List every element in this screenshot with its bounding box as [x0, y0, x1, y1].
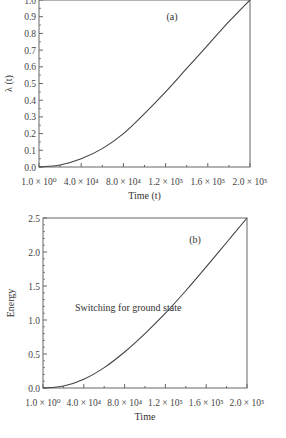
y-tick-label: 0.0	[24, 163, 36, 173]
annotation-text: Switching for ground state	[75, 302, 182, 313]
figure: 0.00.10.20.30.40.50.60.70.80.91.01.0 × 1…	[0, 0, 286, 438]
y-tick-label: 0.0	[28, 384, 40, 394]
y-tick-label: 1.0	[28, 316, 40, 326]
panel-label: (a)	[166, 11, 177, 23]
y-tick-label: 0.6	[24, 62, 36, 72]
x-tick-label: 1.0 × 10⁰	[21, 177, 56, 187]
x-tick-label: 1.0 × 10⁰	[25, 398, 60, 408]
panel-label: (b)	[189, 234, 201, 246]
x-axis-title: Time (t)	[128, 190, 161, 202]
plot-frame	[39, 0, 250, 167]
y-tick-label: 0.5	[28, 350, 40, 360]
y-tick-label: 1.5	[28, 282, 40, 292]
x-tick-label: 8.0 × 10⁴	[106, 177, 141, 187]
x-tick-label: 4.0 × 10⁴	[66, 398, 101, 408]
x-tick-label: 1.6 × 10⁵	[190, 177, 225, 187]
y-tick-label: 0.7	[24, 46, 36, 56]
y-tick-label: 0.3	[24, 112, 36, 122]
y-tick-label: 0.5	[24, 79, 36, 89]
x-tick-label: 2.0 × 10⁵	[233, 177, 268, 187]
y-axis-title: Energy	[5, 289, 16, 318]
y-tick-label: 2.0	[28, 248, 40, 258]
y-tick-label: 0.4	[24, 96, 36, 106]
y-tick-label: 0.8	[24, 29, 36, 39]
y-tick-label: 0.2	[24, 129, 36, 139]
x-tick-label: 8.0 × 10⁴	[107, 398, 142, 408]
x-tick-label: 2.0 × 10⁵	[230, 398, 265, 408]
x-tick-label: 1.6 × 10⁵	[189, 398, 224, 408]
y-tick-label: 0.1	[24, 146, 36, 156]
x-tick-label: 1.2 × 10⁵	[148, 177, 183, 187]
x-axis-title: Time	[135, 411, 156, 422]
panel-a-lambda-chart: 0.00.10.20.30.40.50.60.70.80.91.01.0 × 1…	[3, 0, 267, 202]
panel-b-energy-chart: 0.00.51.01.52.02.51.0 × 10⁰4.0 × 10⁴8.0 …	[5, 214, 264, 423]
y-axis-title: λ (t)	[3, 75, 15, 92]
y-tick-label: 0.9	[24, 12, 36, 22]
y-tick-label: 2.5	[28, 214, 40, 224]
y-tick-label: 1.0	[24, 0, 36, 6]
x-tick-label: 4.0 × 10⁴	[64, 177, 99, 187]
x-tick-label: 1.2 × 10⁵	[148, 398, 183, 408]
data-curve	[39, 0, 250, 167]
